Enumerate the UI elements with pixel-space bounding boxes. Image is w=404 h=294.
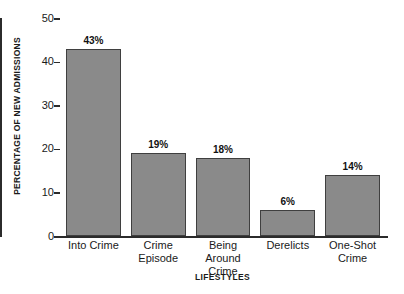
y-axis-title: PERCENTAGE OF NEW ADMISSIONS: [8, 0, 26, 234]
bar: [325, 175, 380, 236]
x-axis-line: [59, 236, 388, 238]
bar-group: 14%: [325, 18, 380, 236]
category-label: Derelicts: [255, 239, 320, 252]
bar-value-label: 43%: [66, 36, 121, 46]
category-label-line: Being Around: [205, 239, 240, 264]
y-tick-mark: [54, 18, 60, 20]
y-tick-label: 0: [28, 231, 54, 242]
bar-group: 19%: [131, 18, 186, 236]
y-tick-mark: [54, 105, 60, 107]
bar-group: 6%: [260, 18, 315, 236]
category-label: Into Crime: [61, 239, 126, 252]
bar-value-label: 6%: [260, 197, 315, 207]
category-label-line: Crime: [320, 252, 385, 265]
bar: [131, 153, 186, 236]
bar-group: 18%: [196, 18, 251, 236]
x-axis-category-labels: Into CrimeCrimeEpisodeBeing AroundCrimeD…: [61, 239, 385, 273]
bar-value-label: 19%: [131, 140, 186, 150]
category-label: CrimeEpisode: [126, 239, 191, 265]
category-label: One-ShotCrime: [320, 239, 385, 265]
x-axis-title: LIFESTYLES: [60, 272, 385, 282]
category-label-line: One-Shot: [329, 239, 376, 251]
bar-value-label: 14%: [325, 162, 380, 172]
bar: [196, 158, 251, 236]
y-tick-label: 30: [28, 100, 54, 111]
y-axis-tick-labels: 01020304050: [28, 0, 54, 294]
category-label-line: Episode: [126, 252, 191, 265]
bar: [260, 210, 315, 236]
bar-series: 43%19%18%6%14%: [61, 18, 385, 236]
y-tick-mark: [54, 62, 60, 64]
bar-chart: PERCENTAGE OF NEW ADMISSIONS 01020304050…: [0, 0, 404, 294]
y-tick-label: 20: [28, 143, 54, 154]
category-label-line: Crime: [144, 239, 173, 251]
bar-value-label: 18%: [196, 145, 251, 155]
y-tick-label: 40: [28, 56, 54, 67]
y-tick-mark: [54, 192, 60, 194]
bar-group: 43%: [66, 18, 121, 236]
category-label-line: Into Crime: [68, 239, 119, 251]
y-tick-mark: [54, 236, 60, 238]
y-tick-label: 50: [28, 13, 54, 24]
bar: [66, 49, 121, 236]
y-tick-mark: [54, 149, 60, 151]
category-label-line: Derelicts: [266, 239, 309, 251]
y-axis-line: [0, 18, 2, 237]
y-tick-label: 10: [28, 187, 54, 198]
